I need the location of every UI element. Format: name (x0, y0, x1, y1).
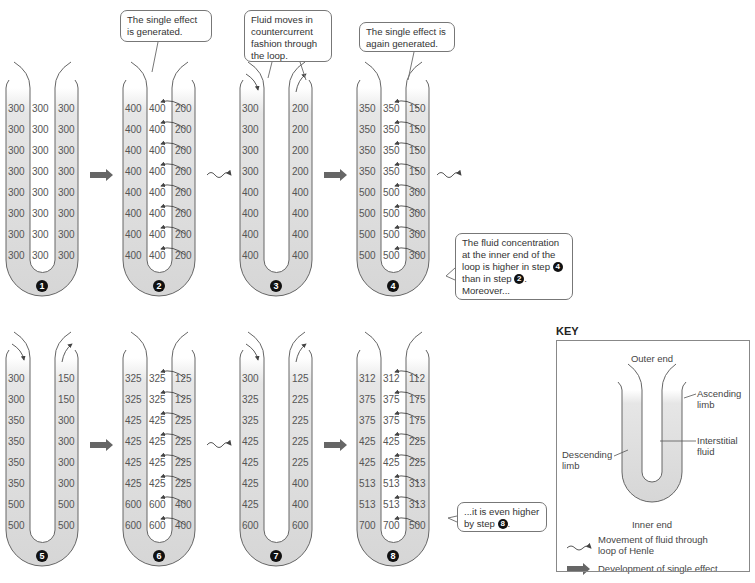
descending-value: 500 (8, 499, 25, 510)
interstitial-value: 400 (149, 145, 166, 156)
descending-value: 300 (8, 229, 25, 240)
countercurrent-diagram: 3003003003003003003003003003003003003003… (0, 0, 755, 583)
single-effect-arrow-icon (90, 439, 113, 451)
descending-value: 425 (242, 478, 259, 489)
ascending-value: 225 (409, 436, 426, 447)
bubble-step3-text: Fluid moves in countercurrent fashion th… (251, 14, 317, 61)
ascending-value: 300 (58, 103, 75, 114)
ascending-value: 175 (409, 415, 426, 426)
ascending-value: 225 (292, 436, 309, 447)
interstitial-value: 312 (383, 373, 400, 384)
descending-value: 425 (125, 436, 142, 447)
ascending-value: 150 (409, 124, 426, 135)
interstitial-value: 400 (149, 124, 166, 135)
descending-value: 700 (359, 520, 376, 531)
descending-value: 400 (242, 250, 259, 261)
interstitial-value: 425 (383, 457, 400, 468)
ascending-value: 400 (292, 229, 309, 240)
interstitial-value: 300 (32, 208, 49, 219)
interstitial-value: 600 (149, 520, 166, 531)
interstitial-value: 300 (32, 145, 49, 156)
ascending-value: 300 (409, 229, 426, 240)
interstitial-value: 400 (149, 187, 166, 198)
ascending-value: 300 (409, 208, 426, 219)
ascending-value: 200 (175, 124, 192, 135)
descending-value: 400 (125, 187, 142, 198)
ascending-value: 112 (409, 373, 425, 384)
descending-value: 375 (359, 394, 376, 405)
ascending-value: 150 (409, 103, 426, 114)
descending-value: 513 (359, 499, 376, 510)
interstitial-value: 700 (383, 520, 400, 531)
descending-value: 300 (8, 208, 25, 219)
ascending-value: 200 (175, 166, 192, 177)
descending-value: 300 (242, 124, 259, 135)
ascending-value: 313 (409, 478, 426, 489)
descending-value: 375 (359, 415, 376, 426)
interstitial-value: 425 (149, 436, 166, 447)
descending-value: 350 (8, 478, 25, 489)
ascending-value: 300 (409, 250, 426, 261)
descending-value: 325 (242, 415, 259, 426)
bubble-step3: Fluid moves in countercurrent fashion th… (244, 10, 332, 62)
ascending-value: 200 (175, 229, 192, 240)
ascending-value: 300 (58, 415, 75, 426)
ascending-value: 150 (58, 373, 75, 384)
fluid-movement-icon (437, 173, 461, 178)
ascending-value: 400 (292, 208, 309, 219)
single-effect-arrow-icon (324, 169, 347, 181)
ascending-value: 225 (175, 457, 192, 468)
ascending-value: 400 (175, 499, 192, 510)
descending-value: 300 (242, 166, 259, 177)
ascending-value: 300 (58, 145, 75, 156)
descending-value: 400 (125, 229, 142, 240)
interstitial-value: 375 (383, 415, 400, 426)
ascending-value: 200 (292, 103, 309, 114)
descending-value: 600 (125, 499, 142, 510)
ascending-value: 300 (58, 124, 75, 135)
ascending-value: 225 (292, 415, 309, 426)
ascending-value: 300 (58, 166, 75, 177)
interstitial-value: 350 (383, 124, 400, 135)
ascending-value: 313 (409, 499, 426, 510)
descending-value: 350 (359, 145, 376, 156)
interstitial-value: 300 (32, 103, 49, 114)
step-number: 5 (39, 551, 44, 561)
interstitial-value: 300 (32, 250, 49, 261)
ascending-value: 200 (175, 187, 192, 198)
ascending-value: 150 (58, 394, 75, 405)
descending-value: 400 (125, 250, 142, 261)
descending-value: 350 (359, 124, 376, 135)
step-number: 6 (156, 551, 161, 561)
step-number: 3 (273, 281, 278, 291)
ascending-value: 125 (292, 373, 309, 384)
bubble-step2-text: The single effect is generated. (127, 14, 197, 37)
interstitial-value: 500 (383, 187, 400, 198)
loop-step-6: 3253251253253251254254252254254252254254… (123, 332, 195, 566)
interstitial-value: 513 (383, 478, 400, 489)
descending-value: 500 (359, 208, 376, 219)
key-box (556, 340, 750, 572)
step-number: 1 (39, 281, 44, 291)
ascending-value: 200 (292, 145, 309, 156)
descending-value: 300 (8, 250, 25, 261)
ascending-value: 500 (409, 520, 426, 531)
ascending-value: 225 (292, 457, 309, 468)
interstitial-value: 500 (383, 250, 400, 261)
interstitial-value: 300 (32, 124, 49, 135)
descending-value: 500 (359, 250, 376, 261)
ascending-value: 300 (58, 436, 75, 447)
descending-value: 300 (8, 373, 25, 384)
descending-value: 425 (125, 478, 142, 489)
interstitial-value: 400 (149, 208, 166, 219)
descending-value: 312 (359, 373, 376, 384)
descending-value: 425 (242, 457, 259, 468)
step-ref-4: 4 (553, 262, 563, 272)
descending-value: 400 (242, 229, 259, 240)
ascending-value: 300 (58, 457, 75, 468)
bubble-step2: The single effect is generated. (120, 10, 212, 42)
ascending-value: 175 (409, 394, 426, 405)
ascending-value: 300 (58, 187, 75, 198)
ascending-value: 300 (409, 187, 426, 198)
ascending-value: 225 (409, 457, 426, 468)
